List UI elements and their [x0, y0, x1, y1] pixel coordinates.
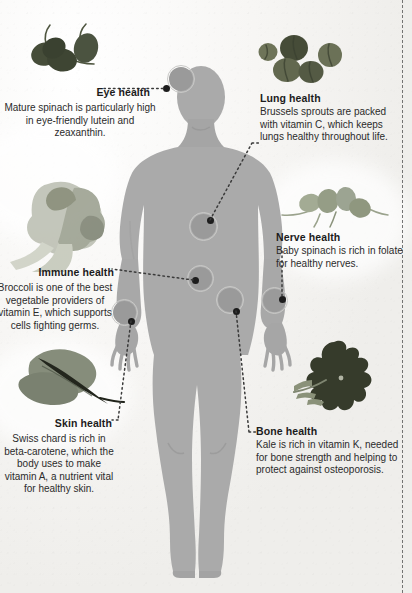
callout-nerve-heading: Nerve health [276, 231, 408, 244]
infographic-canvas: Eye health Mature spinach is particularl… [0, 0, 412, 593]
right-dashed-rule [402, 0, 403, 593]
callout-lung-body: Brussels sprouts are packed with vitamin… [260, 106, 400, 144]
callout-bone-heading: Bone health [256, 425, 406, 438]
callout-immune-heading: Immune health [39, 266, 114, 278]
anchor-dot-skin [128, 318, 135, 325]
callout-immune-body: Broccoli is one of the best vegetable pr… [0, 282, 116, 332]
anchor-dot-lung [207, 217, 214, 224]
callout-immune: Immune health Broccoli is one of the bes… [0, 262, 116, 332]
anchor-dot-nerve [279, 296, 286, 303]
callout-lung: Lung health Brussels sprouts are packed … [260, 92, 400, 144]
marker-lung[interactable] [189, 212, 218, 241]
callout-eye: Eye health Mature spinach is particularl… [4, 82, 156, 140]
marker-immune-ring [187, 265, 214, 292]
callout-nerve: Nerve health Baby spinach is rich in fol… [276, 231, 408, 270]
marker-eye[interactable] [167, 65, 195, 93]
marker-immune[interactable] [187, 265, 214, 292]
anchor-dot-bone [233, 308, 240, 315]
callout-eye-body: Mature spinach is particularly high in e… [4, 102, 156, 140]
anchor-dot-immune [192, 277, 199, 284]
callout-skin: Skin health Swiss chard is rich in beta-… [4, 413, 114, 496]
anchor-dot-eye [163, 85, 170, 92]
callout-skin-body: Swiss chard is rich in beta-carotene, wh… [4, 433, 114, 496]
marker-lung-ring [189, 212, 218, 241]
callout-nerve-body: Baby spinach is rich in folate for healt… [276, 245, 408, 270]
callout-bone: Bone health Kale is rich in vitamin K, n… [256, 425, 406, 477]
callout-lung-heading: Lung health [260, 92, 400, 105]
callout-skin-heading: Skin health [55, 417, 112, 429]
callout-bone-body: Kale is rich in vitamin K, needed for bo… [256, 439, 406, 477]
marker-eye-ring [167, 65, 195, 93]
callout-eye-heading: Eye health [96, 86, 150, 98]
